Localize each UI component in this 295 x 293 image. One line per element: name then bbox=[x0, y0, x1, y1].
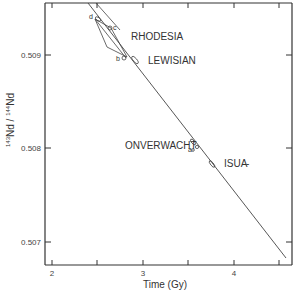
y-tick-label: 0.508 bbox=[21, 144, 42, 153]
y-tick-label: 0.509 bbox=[21, 51, 42, 60]
point-label-b: b bbox=[116, 55, 120, 62]
isochron-chart: 2 3 4 0.509 0.508 0.507 Time (Gy) 143Nd … bbox=[0, 0, 295, 293]
evolution-line bbox=[88, 3, 286, 258]
x-axis-label: Time (Gy) bbox=[143, 279, 187, 290]
y-axis-label: 143Nd / 144Nd bbox=[5, 93, 16, 147]
rhodesia-data bbox=[95, 16, 127, 60]
x-tick-label: 4 bbox=[232, 269, 237, 278]
label-lewisian: LEWISIAN bbox=[148, 55, 196, 66]
point-label-d: d bbox=[89, 13, 93, 20]
label-isua-dash: - bbox=[246, 158, 249, 169]
point-label-c: c bbox=[113, 24, 117, 31]
y-tick-label: 0.507 bbox=[21, 238, 42, 247]
svg-text:143Nd / 144Nd: 143Nd / 144Nd bbox=[5, 93, 16, 147]
label-rhodesia: RHODESIA bbox=[131, 31, 184, 42]
isua-data bbox=[208, 160, 215, 168]
label-isua: ISUA bbox=[224, 158, 248, 169]
x-axis-ticks bbox=[52, 3, 279, 265]
label-onverwacht: ONVERWACHT bbox=[125, 140, 197, 151]
x-tick-label: 2 bbox=[50, 269, 55, 278]
x-tick-label: 3 bbox=[141, 269, 146, 278]
plot-frame bbox=[45, 3, 292, 265]
